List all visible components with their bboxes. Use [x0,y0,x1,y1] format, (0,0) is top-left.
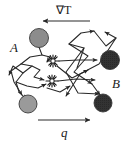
region-a-label: A [9,40,18,55]
trajectory-center-to-b [57,66,88,78]
scattering-center-upper [47,55,59,67]
gradient-label: ∇T [55,3,72,17]
region-b-label: B [112,76,120,91]
scatterer-top-left [30,29,49,48]
scatterer-bottom-left [19,95,37,113]
scatterer-bottom-right [94,94,112,112]
trajectory-center-right-1 [59,60,97,61]
trajectory-lower-left [16,82,46,88]
scatterer-top-right [101,51,120,70]
trajectory-group [9,31,116,99]
trajectory-left-mid [32,66,44,80]
flux-label: q [61,125,68,140]
scattering-figure-container: ∇T q A B [0,0,131,143]
scattering-figure: ∇T q A B [0,0,131,143]
trajectory-extra-mid [47,86,70,92]
scattering-center-lower [46,75,58,87]
